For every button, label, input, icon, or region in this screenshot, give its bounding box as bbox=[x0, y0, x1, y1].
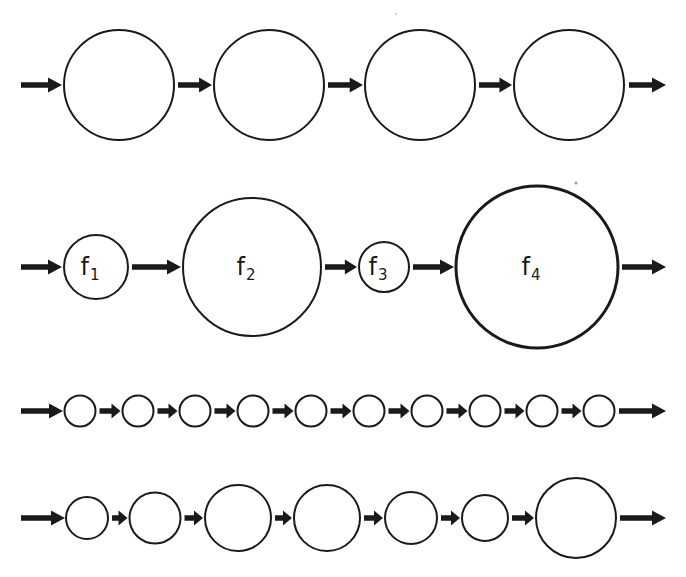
entry-arrow-icon bbox=[21, 78, 62, 93]
flow-arrow-icon bbox=[100, 404, 121, 419]
process-row-2: f1f2f3f4 bbox=[21, 186, 666, 348]
stage-circle bbox=[527, 396, 558, 427]
flow-arrow-icon bbox=[132, 260, 181, 275]
stage-circle bbox=[365, 30, 475, 140]
pipeline-diagram: f1f2f3f4 bbox=[0, 0, 686, 577]
stage-subscript: 2 bbox=[246, 266, 256, 284]
entry-arrow-icon bbox=[21, 511, 65, 526]
flow-arrow-icon bbox=[158, 404, 178, 419]
stage-circle bbox=[584, 396, 615, 427]
stage-node bbox=[514, 30, 624, 140]
flow-arrow-icon bbox=[185, 511, 204, 526]
flow-arrow-icon bbox=[364, 511, 383, 526]
scan-speck bbox=[575, 182, 578, 185]
stage-node-f4: f4 bbox=[456, 186, 618, 348]
stage-label: f4 bbox=[522, 253, 541, 284]
process-row-4 bbox=[21, 478, 666, 558]
stage-node bbox=[296, 396, 327, 427]
entry-arrow-icon bbox=[21, 260, 62, 275]
process-row-3 bbox=[21, 396, 666, 427]
stage-node bbox=[238, 396, 269, 427]
flow-arrow-icon bbox=[447, 404, 468, 419]
stage-node bbox=[294, 485, 360, 551]
stage-node bbox=[462, 495, 508, 541]
flow-arrow-icon bbox=[178, 78, 212, 93]
stage-circle bbox=[66, 497, 108, 539]
stage-node bbox=[412, 396, 443, 427]
stage-node bbox=[536, 478, 616, 558]
stage-subscript: 4 bbox=[531, 266, 541, 284]
flow-arrow-icon bbox=[325, 260, 357, 275]
stage-node-f2: f2 bbox=[183, 198, 321, 336]
stage-circle bbox=[536, 478, 616, 558]
exit-arrow-icon bbox=[622, 260, 666, 275]
stage-node bbox=[65, 396, 96, 427]
stage-subscript: 3 bbox=[378, 266, 388, 284]
stage-label: f1 bbox=[81, 253, 100, 284]
exit-arrow-icon bbox=[629, 78, 666, 93]
stage-node-f3: f3 bbox=[359, 242, 409, 292]
flow-arrow-icon bbox=[331, 404, 352, 419]
entry-arrow-icon bbox=[21, 404, 63, 419]
flow-arrow-icon bbox=[505, 404, 525, 419]
stage-node bbox=[214, 30, 324, 140]
stage-node bbox=[180, 396, 211, 427]
stage-circle bbox=[296, 396, 327, 427]
exit-arrow-icon bbox=[619, 404, 666, 419]
stage-node bbox=[64, 30, 174, 140]
stage-label: f3 bbox=[369, 253, 388, 284]
stage-node-f1: f1 bbox=[64, 235, 128, 299]
stage-node bbox=[470, 396, 501, 427]
flow-arrow-icon bbox=[479, 78, 512, 93]
flow-arrow-icon bbox=[273, 404, 294, 419]
stage-circle bbox=[65, 396, 96, 427]
stage-subscript: 1 bbox=[90, 266, 100, 284]
stage-node bbox=[365, 30, 475, 140]
stage-circle bbox=[238, 396, 269, 427]
stage-node bbox=[527, 396, 558, 427]
flow-arrow-icon bbox=[215, 404, 236, 419]
flow-arrow-icon bbox=[562, 404, 582, 419]
exit-arrow-icon bbox=[620, 511, 666, 526]
stage-node bbox=[584, 396, 615, 427]
flow-arrow-icon bbox=[512, 511, 534, 526]
stage-circle bbox=[130, 493, 181, 544]
process-row-1 bbox=[21, 30, 666, 140]
stage-circle bbox=[180, 396, 211, 427]
stage-node bbox=[130, 493, 181, 544]
scan-speck bbox=[395, 13, 397, 15]
flow-arrow-icon bbox=[328, 78, 363, 93]
stage-circle bbox=[412, 396, 443, 427]
flow-arrow-icon bbox=[441, 511, 460, 526]
stage-circle bbox=[385, 492, 437, 544]
stage-circle bbox=[470, 396, 501, 427]
stage-circle bbox=[214, 30, 324, 140]
flow-arrow-icon bbox=[275, 511, 292, 526]
stage-node bbox=[354, 396, 385, 427]
stage-node bbox=[385, 492, 437, 544]
stage-circle bbox=[205, 485, 271, 551]
flow-arrow-icon bbox=[413, 260, 454, 275]
stage-circle bbox=[64, 30, 174, 140]
stage-node bbox=[205, 485, 271, 551]
stage-circle bbox=[123, 396, 154, 427]
stage-label: f2 bbox=[237, 253, 256, 284]
stage-node bbox=[123, 396, 154, 427]
stage-circle bbox=[354, 396, 385, 427]
stage-circle bbox=[514, 30, 624, 140]
flow-arrow-icon bbox=[112, 511, 128, 526]
stage-node bbox=[66, 497, 108, 539]
flow-arrow-icon bbox=[389, 404, 410, 419]
stage-circle bbox=[462, 495, 508, 541]
stage-circle bbox=[294, 485, 360, 551]
